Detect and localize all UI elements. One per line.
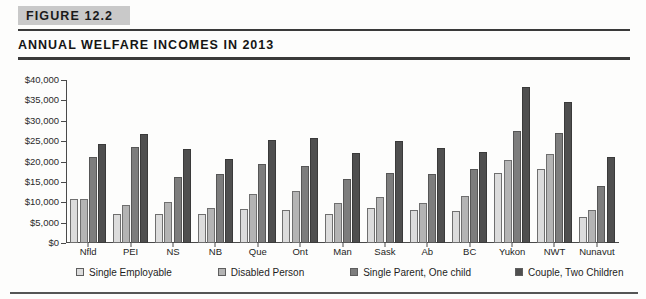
legend-swatch-icon xyxy=(350,268,358,276)
legend-label: Disabled Person xyxy=(231,267,304,278)
bar xyxy=(607,157,615,243)
bar-group xyxy=(449,80,491,243)
y-axis-tick-label: $0 xyxy=(17,237,59,248)
chart-container: $40,000$35,000$30,000$25,000$20,000$15,0… xyxy=(18,66,630,288)
x-axis-tick-label: PEI xyxy=(109,246,151,260)
y-axis-tick-label: $30,000 xyxy=(17,115,59,126)
bar xyxy=(131,147,139,243)
divider-middle xyxy=(18,57,630,60)
bar xyxy=(122,205,130,243)
bar xyxy=(437,148,445,243)
bar-group xyxy=(279,80,321,243)
bar xyxy=(292,191,300,243)
bar xyxy=(301,166,309,243)
bar-group xyxy=(194,80,236,243)
legend-item[interactable]: Disabled Person xyxy=(218,267,304,278)
bar xyxy=(395,141,403,243)
y-axis-tick-mark xyxy=(61,100,66,101)
bar xyxy=(352,153,360,243)
legend-swatch-icon xyxy=(515,268,523,276)
y-axis-labels: $40,000$35,000$30,000$25,000$20,000$15,0… xyxy=(18,80,59,243)
x-axis-tick-label: NB xyxy=(194,246,236,260)
legend-item[interactable]: Single Parent, One child xyxy=(350,267,471,278)
legend-item[interactable]: Couple, Two Children xyxy=(515,267,623,278)
y-axis-tick-mark xyxy=(61,80,66,81)
bar xyxy=(225,159,233,243)
bar xyxy=(268,140,276,243)
bar xyxy=(113,214,121,243)
bar xyxy=(537,169,545,243)
y-axis-tick-label: $40,000 xyxy=(17,74,59,85)
x-axis-tick-label: NS xyxy=(152,246,194,260)
bar xyxy=(310,138,318,243)
bar xyxy=(282,210,290,243)
legend-label: Couple, Two Children xyxy=(528,267,623,278)
y-axis-tick-mark xyxy=(61,202,66,203)
y-axis-tick-label: $20,000 xyxy=(17,156,59,167)
bar xyxy=(470,169,478,243)
divider-bottom xyxy=(10,292,638,294)
y-axis-tick-label: $15,000 xyxy=(17,176,59,187)
bar xyxy=(183,149,191,243)
bar-group xyxy=(109,80,151,243)
bar xyxy=(579,217,587,243)
bar xyxy=(80,199,88,243)
bar xyxy=(216,174,224,243)
bar xyxy=(410,210,418,243)
x-axis-tick-label: Sask xyxy=(364,246,406,260)
bar xyxy=(140,134,148,243)
bar-group xyxy=(364,80,406,243)
figure-title: ANNUAL WELFARE INCOMES IN 2013 xyxy=(18,34,630,56)
bar-group xyxy=(576,80,618,243)
bar xyxy=(325,214,333,243)
x-axis-tick-label: Que xyxy=(237,246,279,260)
figure-number-badge: FIGURE 12.2 xyxy=(18,6,130,25)
bar xyxy=(207,208,215,243)
legend-label: Single Parent, One child xyxy=(363,267,471,278)
y-axis-tick-label: $35,000 xyxy=(17,94,59,105)
x-axis-tick-label: Yukon xyxy=(491,246,533,260)
x-axis-tick-label: Man xyxy=(321,246,363,260)
bar xyxy=(89,157,97,243)
bar xyxy=(479,152,487,243)
bar-group xyxy=(406,80,448,243)
divider-top xyxy=(18,29,630,31)
bar xyxy=(258,164,266,243)
bar xyxy=(367,208,375,243)
bar xyxy=(334,203,342,243)
legend-label: Single Employable xyxy=(89,267,172,278)
x-axis-tick-label: Nunavut xyxy=(576,246,618,260)
legend-item[interactable]: Single Employable xyxy=(76,267,172,278)
bar-group xyxy=(321,80,363,243)
x-axis-tick-label: BC xyxy=(449,246,491,260)
bar xyxy=(546,154,554,243)
figure-page: FIGURE 12.2 ANNUAL WELFARE INCOMES IN 20… xyxy=(0,0,646,299)
bar xyxy=(70,199,78,243)
x-axis-tick-label: Ont xyxy=(279,246,321,260)
bar xyxy=(513,131,521,243)
bar xyxy=(564,102,572,243)
bar-group xyxy=(533,80,575,243)
bar xyxy=(174,177,182,243)
legend-swatch-icon xyxy=(76,268,84,276)
bar xyxy=(343,179,351,243)
bar xyxy=(428,174,436,243)
x-axis-tick-label: Nfld xyxy=(67,246,109,260)
x-axis-tick-label: NWT xyxy=(533,246,575,260)
bar xyxy=(504,160,512,243)
bar xyxy=(155,214,163,243)
bar-group xyxy=(67,80,109,243)
bar xyxy=(588,210,596,243)
bar xyxy=(494,173,502,243)
bar xyxy=(376,197,384,243)
bar xyxy=(452,211,460,243)
bar-group xyxy=(237,80,279,243)
bar-group xyxy=(491,80,533,243)
bar xyxy=(249,194,257,243)
y-axis-tick-label: $5,000 xyxy=(17,217,59,228)
figure-number-label: FIGURE 12.2 xyxy=(18,9,113,23)
bar xyxy=(522,87,530,243)
bar xyxy=(555,133,563,243)
y-axis-tick-mark xyxy=(61,121,66,122)
legend-swatch-icon xyxy=(218,268,226,276)
